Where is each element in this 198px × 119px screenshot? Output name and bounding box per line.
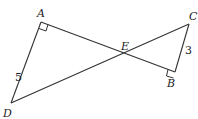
- length-label-cb: 3: [185, 44, 192, 57]
- point-label-c: C: [189, 10, 198, 23]
- geometry-diagram: A C E B D 5 3: [0, 0, 198, 119]
- length-label-ad: 5: [15, 71, 22, 84]
- point-label-a: A: [36, 7, 45, 20]
- segment-dc: [11, 24, 189, 103]
- segment-ad: [11, 22, 41, 103]
- right-angle-marker-a: [39, 25, 48, 32]
- segment-ab: [41, 22, 175, 72]
- point-label-d: D: [2, 107, 12, 119]
- point-label-b: B: [166, 77, 175, 90]
- point-label-e: E: [120, 40, 129, 53]
